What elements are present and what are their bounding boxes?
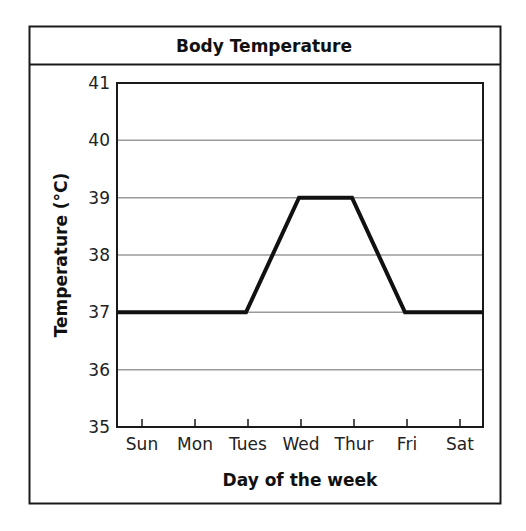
x-tick-label: Fri xyxy=(397,434,417,454)
y-tick-label: 37 xyxy=(88,302,110,322)
x-axis-label: Day of the week xyxy=(223,470,378,490)
y-tick-label: 41 xyxy=(88,73,110,93)
y-tick-label: 40 xyxy=(88,130,110,150)
y-tick-label: 38 xyxy=(88,245,110,265)
x-tick-label: Thur xyxy=(334,434,374,454)
x-tick-label: Mon xyxy=(177,434,213,454)
y-tick-label: 36 xyxy=(88,360,110,380)
body-temperature-chart: Body Temperature 35363738394041 SunMonTu… xyxy=(0,0,526,531)
y-tick-label: 39 xyxy=(88,188,110,208)
x-tick-label: Wed xyxy=(282,434,319,454)
x-tick-label: Tues xyxy=(228,434,267,454)
x-tick-label: Sun xyxy=(126,434,158,454)
y-tick-label: 35 xyxy=(88,417,110,437)
x-tick-label: Sat xyxy=(446,434,474,454)
y-axis-label: Temperature (°C) xyxy=(51,173,71,338)
chart-title: Body Temperature xyxy=(176,36,352,56)
